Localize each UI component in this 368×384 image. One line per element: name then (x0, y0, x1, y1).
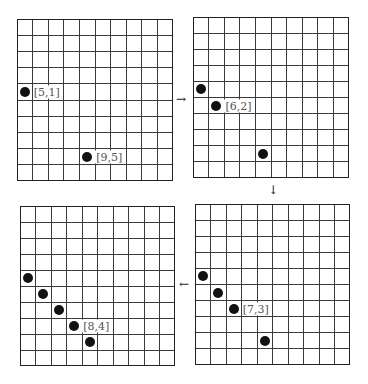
grid-point (258, 149, 268, 159)
sequence-arrow-icon: → (176, 93, 186, 105)
grid-line-horizontal (21, 254, 174, 255)
grid-line-horizontal (18, 132, 172, 133)
grid-line-horizontal (18, 35, 172, 36)
grid-point (260, 336, 270, 346)
grid-point (69, 321, 79, 331)
grid-line-horizontal (196, 348, 349, 349)
grid-line-horizontal (194, 97, 348, 98)
grid-line-horizontal (21, 318, 174, 319)
grid-bottom-right (195, 204, 350, 365)
grid-line-horizontal (18, 83, 172, 84)
grid-line-horizontal (21, 270, 174, 271)
grid-line-horizontal (21, 222, 174, 223)
grid-point (196, 84, 206, 94)
grid-line-horizontal (18, 148, 172, 149)
grid-line-horizontal (18, 100, 172, 101)
grid-point (211, 101, 221, 111)
grid-line-horizontal (196, 252, 349, 253)
grid-point (82, 152, 92, 162)
grid-line-horizontal (196, 284, 349, 285)
grid-line-horizontal (21, 238, 174, 239)
grid-line-horizontal (18, 164, 172, 165)
grid-line-horizontal (21, 302, 174, 303)
sequence-arrow-icon: ← (179, 278, 189, 290)
grid-point (20, 87, 30, 97)
grid-line-horizontal (18, 67, 172, 68)
grid-point (213, 288, 223, 298)
point-label: [7,3] (242, 302, 270, 315)
grid-point (85, 337, 95, 347)
grid-line-horizontal (194, 49, 348, 50)
grid-line-horizontal (194, 113, 348, 114)
point-label: [9,5] (95, 150, 123, 163)
grid-point (38, 289, 48, 299)
grid-line-horizontal (21, 286, 174, 287)
grid-line-horizontal (194, 81, 348, 82)
grid-line-horizontal (18, 51, 172, 52)
grid-line-horizontal (194, 33, 348, 34)
grid-line-horizontal (196, 220, 349, 221)
grid-line-horizontal (196, 236, 349, 237)
grid-line-horizontal (196, 316, 349, 317)
grid-line-horizontal (196, 300, 349, 301)
point-label: [8,4] (82, 320, 110, 333)
grid-line-horizontal (196, 268, 349, 269)
grid-point (198, 271, 208, 281)
grid-line-horizontal (194, 145, 348, 146)
grid-line-horizontal (21, 334, 174, 335)
grid-line-horizontal (18, 116, 172, 117)
grid-top-right (193, 17, 349, 178)
grid-point (54, 305, 64, 315)
grid-line-horizontal (21, 350, 174, 351)
grid-line-horizontal (196, 332, 349, 333)
sequence-arrow-icon: ↓ (268, 184, 278, 196)
grid-line-horizontal (194, 65, 348, 66)
grid-point (229, 304, 239, 314)
point-label: [5,1] (33, 85, 61, 98)
grid-bottom-left (20, 206, 175, 366)
grid-line-horizontal (194, 161, 348, 162)
point-label: [6,2] (224, 99, 252, 112)
grid-line-horizontal (194, 129, 348, 130)
grid-point (23, 273, 33, 283)
